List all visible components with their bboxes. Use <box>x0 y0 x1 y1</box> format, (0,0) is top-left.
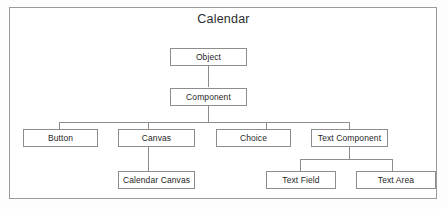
node-canvas-label: Canvas <box>142 133 171 143</box>
node-text-field-label: Text Field <box>282 175 319 185</box>
edge-canvas-calendar-canvas <box>148 147 149 171</box>
edge-component-bus-drop <box>208 106 209 122</box>
node-text-component-label: Text Component <box>318 133 381 143</box>
node-choice-label: Choice <box>240 133 267 143</box>
node-text-component[interactable]: Text Component <box>311 129 388 147</box>
node-text-field[interactable]: Text Field <box>266 171 336 189</box>
node-object-label: Object <box>196 52 221 62</box>
edge-bus-text-field <box>300 159 301 171</box>
edge-object-component <box>208 66 209 87</box>
node-calendar-canvas-label: Calendar Canvas <box>123 175 190 185</box>
node-button-label: Button <box>48 133 73 143</box>
figure-title: Calendar <box>0 12 447 26</box>
node-calendar-canvas[interactable]: Calendar Canvas <box>118 171 195 189</box>
edge-text-component-bus <box>300 159 392 160</box>
node-text-area-label: Text Area <box>378 175 414 185</box>
node-component[interactable]: Component <box>170 88 247 106</box>
diagram-canvas: Calendar Object Component Button Canvas … <box>0 0 447 209</box>
node-canvas[interactable]: Canvas <box>118 129 195 147</box>
edge-component-bus <box>59 122 350 123</box>
node-choice[interactable]: Choice <box>216 129 291 147</box>
node-component-label: Component <box>186 92 231 102</box>
edge-text-component-bus-drop <box>349 147 350 159</box>
edge-bus-text-area <box>392 159 393 171</box>
edge-bus-choice <box>266 122 267 129</box>
node-text-area[interactable]: Text Area <box>356 171 436 189</box>
edge-bus-button <box>59 122 60 129</box>
edge-bus-canvas <box>148 122 149 129</box>
node-object[interactable]: Object <box>170 48 247 66</box>
edge-bus-text-component <box>349 122 350 129</box>
node-button[interactable]: Button <box>23 129 98 147</box>
